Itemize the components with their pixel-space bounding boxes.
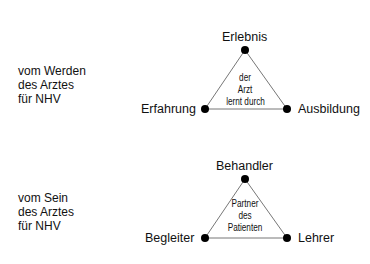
side-label-werden: vom Werden des Arztes für NHV <box>18 64 86 106</box>
center-text-line: der <box>226 72 264 84</box>
center-text-line: des <box>226 210 264 222</box>
vertex-dot-left <box>201 234 209 242</box>
side-label-line: des Arztes <box>18 78 86 92</box>
center-text-line: Patienten <box>226 222 264 234</box>
side-label-line: vom Werden <box>18 64 86 78</box>
vertex-label-top: Erlebnis <box>222 30 267 44</box>
side-label-line: für NHV <box>18 92 86 106</box>
center-text-line: Arzt <box>226 84 264 96</box>
side-label-line: des Arztes <box>18 205 74 219</box>
center-text-sein: Partner des Patienten <box>226 198 264 234</box>
vertex-dot-right <box>283 234 291 242</box>
vertex-label-top: Behandler <box>216 159 273 173</box>
vertex-label-left: Erfahrung <box>141 102 196 116</box>
side-label-sein: vom Sein des Arztes für NHV <box>18 191 74 233</box>
vertex-label-right: Ausbildung <box>298 102 360 116</box>
center-text-werden: der Arzt lernt durch <box>226 72 264 108</box>
vertex-dot-top <box>241 46 249 54</box>
center-text-line: Partner <box>226 198 264 210</box>
vertex-dot-top <box>241 175 249 183</box>
vertex-dot-left <box>201 105 209 113</box>
vertex-label-left: Begleiter <box>145 231 194 245</box>
vertex-label-right: Lehrer <box>298 231 334 245</box>
side-label-line: vom Sein <box>18 191 74 205</box>
side-label-line: für NHV <box>18 219 74 233</box>
center-text-line: lernt durch <box>226 96 264 108</box>
vertex-dot-right <box>283 105 291 113</box>
